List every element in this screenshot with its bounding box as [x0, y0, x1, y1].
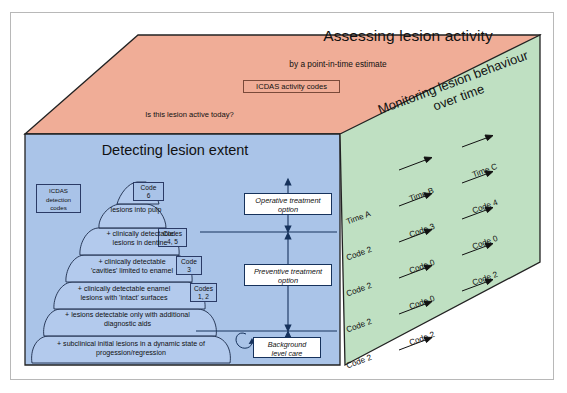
pyramid-label-tier-1-line-1: lesions into pulp	[90, 206, 182, 215]
pyramid-label-tier-6-line-2: progession/regression	[32, 349, 230, 358]
pyramid-label-tier-5-line-1: + lesions detectable only with additiona…	[40, 311, 215, 320]
background-level-care-box: Background level care	[253, 337, 321, 358]
icdas-detection-codes-box: ICDAS detection codes	[36, 184, 81, 213]
pyramid-label-tier-6: + subclinical initial lesions in a dynam…	[32, 340, 230, 358]
top-face-title: Assessing lesion activity	[283, 27, 533, 45]
operative-treatment-line-1: Operative treatment	[245, 196, 331, 205]
code-badge-6-line-1: Code	[134, 184, 163, 192]
background-level-care-line-1: Background	[254, 340, 320, 349]
left-face-title: Detecting lesion extent	[55, 142, 295, 158]
top-face-question: Is this lesion active today?	[102, 110, 277, 119]
pyramid-label-tier-5-line-2: diagnostic aids	[40, 320, 215, 329]
code-badge-6: Code 6	[133, 182, 164, 201]
pyramid-label-tier-3-line-2: 'cavities' limited to enamel	[62, 267, 202, 276]
pyramid-label-tier-2-line-2: lesions in dentine	[75, 239, 205, 248]
icdas-detection-line-1: ICDAS	[37, 187, 80, 196]
top-face-subtitle: by a point-in-time estimate	[228, 59, 448, 69]
preventive-treatment-line-1: Preventive treatment	[245, 267, 331, 276]
pyramid-label-tier-2-line-1: + clinically detectable	[75, 230, 205, 239]
icdas-detection-line-3: codes	[37, 204, 80, 213]
pyramid-label-tier-6-line-1: + subclinical initial lesions in a dynam…	[32, 340, 230, 349]
diagram-canvas: Assessing lesion activity by a point-in-…	[0, 0, 567, 393]
pyramid-label-tier-4-line-2: lesions with 'intact' surfaces	[48, 294, 200, 303]
pyramid-label-tier-3: + clinically detectable 'cavities' limit…	[62, 258, 202, 276]
pyramid-label-tier-5: + lesions detectable only with additiona…	[40, 311, 215, 329]
pyramid-label-tier-4-line-1: + clinically detectable enamel	[48, 285, 200, 294]
pyramid-label-tier-2: + clinically detectable lesions in denti…	[75, 230, 205, 248]
pyramid-label-tier-1: lesions into pulp	[90, 206, 182, 215]
icdas-detection-line-2: detection	[37, 196, 80, 205]
operative-treatment-box: Operative treatment option	[244, 193, 332, 215]
preventive-treatment-line-2: option	[245, 276, 331, 285]
background-level-care-line-2: level care	[254, 349, 320, 358]
pyramid-label-tier-3-line-1: + clinically detectable	[62, 258, 202, 267]
icdas-activity-codes-box: ICDAS activity codes	[243, 80, 340, 93]
code-badge-6-line-2: 6	[134, 192, 163, 200]
operative-treatment-line-2: option	[245, 205, 331, 214]
preventive-treatment-box: Preventive treatment option	[244, 264, 332, 286]
pyramid-label-tier-4: + clinically detectable enamel lesions w…	[48, 285, 200, 303]
